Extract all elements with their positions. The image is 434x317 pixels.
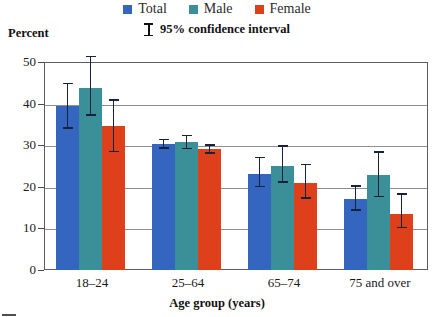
bar-groups: [44, 62, 428, 270]
x-tick-label-2: 65–74: [236, 275, 332, 291]
error-bar-female-3: [397, 193, 407, 228]
y-tick-label-30: 30: [2, 137, 36, 153]
bar-male-1: [175, 142, 198, 270]
x-tick-label-1: 25–64: [140, 275, 236, 291]
bar-group: [332, 62, 428, 270]
legend-swatch-female: [255, 5, 264, 14]
bar-group: [236, 62, 332, 270]
y-tick-label-50: 50: [2, 54, 36, 70]
legend-item-female: Female: [255, 2, 311, 16]
x-tick-label-3: 75 and over: [332, 275, 428, 291]
legend-swatch-total: [123, 5, 132, 14]
confidence-interval-note: 95% confidence interval: [0, 23, 434, 36]
legend-label-total: Total: [138, 2, 167, 16]
page-edge-mark: [2, 314, 16, 316]
error-bar-total-1: [159, 139, 169, 149]
y-tick-mark-0: [38, 270, 44, 271]
legend-item-male: Male: [189, 2, 233, 16]
y-tick-label-10: 10: [2, 220, 36, 236]
bar-group: [44, 62, 140, 270]
bar-total-2: [248, 174, 271, 270]
legend-swatch-male: [189, 5, 198, 14]
legend-item-total: Total: [123, 2, 167, 16]
error-bar-total-3: [351, 185, 361, 211]
error-bar-icon: [144, 23, 153, 36]
error-bar-male-2: [278, 145, 288, 182]
error-bar-total-0: [63, 83, 73, 129]
y-tick-label-0: 0: [2, 262, 36, 278]
bar-chart: Total Male Female 95% confidence interva…: [0, 0, 434, 317]
x-tick-label-0: 18–24: [44, 275, 140, 291]
error-bar-total-2: [255, 157, 265, 187]
confidence-interval-label: 95% confidence interval: [160, 23, 290, 36]
bar-group: [140, 62, 236, 270]
error-bar-male-3: [374, 151, 384, 197]
error-bar-female-0: [109, 99, 119, 152]
bar-total-0: [56, 106, 79, 270]
bar-female-1: [198, 149, 221, 270]
error-bar-female-2: [301, 164, 311, 199]
bar-total-1: [152, 144, 175, 270]
x-axis-title: Age group (years): [0, 296, 434, 311]
error-bar-male-0: [86, 56, 96, 116]
error-bar-female-1: [205, 144, 215, 154]
error-bar-male-1: [182, 135, 192, 150]
y-tick-label-40: 40: [2, 96, 36, 112]
legend-label-male: Male: [204, 2, 233, 16]
y-tick-label-20: 20: [2, 179, 36, 195]
y-axis-title: Percent: [8, 26, 49, 41]
chart-legend: Total Male Female: [0, 2, 434, 16]
legend-label-female: Female: [270, 2, 311, 16]
